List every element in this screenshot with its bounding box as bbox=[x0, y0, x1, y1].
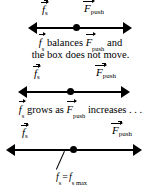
label-friction-force-panel-2: fs bbox=[34, 68, 40, 79]
force-arrow-panel-2 bbox=[18, 86, 130, 98]
force-arrow-panel-3 bbox=[6, 144, 142, 156]
arrow-head-right-icon bbox=[121, 86, 130, 98]
caption-panel-1-line-2: the box does not move. bbox=[0, 49, 161, 60]
arrow-shaft bbox=[24, 91, 124, 93]
arrow-head-right-icon bbox=[123, 22, 132, 34]
panel-friction-grows: fs Fpush fs grows as Fpush increases . .… bbox=[0, 64, 161, 122]
arrow-head-right-icon bbox=[133, 144, 142, 156]
caption-panel-2: fs grows as Fpush increases . . . bbox=[0, 104, 161, 119]
label-friction-force-panel-1: fs bbox=[42, 4, 48, 15]
box-pivot-dot bbox=[73, 24, 80, 31]
vector-symbol-F: F bbox=[84, 3, 91, 14]
label-push-force-panel-3: Fpush bbox=[112, 125, 132, 136]
panel-friction-at-maximum: fs Fpush fs=fs max bbox=[0, 122, 161, 194]
box-pivot-dot bbox=[70, 146, 77, 153]
vector-symbol-F: F bbox=[96, 67, 103, 78]
arrow-shaft bbox=[34, 27, 126, 29]
label-push-force-panel-1: Fpush bbox=[84, 3, 104, 14]
annotation-max-static-friction: fs=fs max bbox=[56, 172, 87, 185]
label-push-force-panel-2: Fpush bbox=[96, 67, 116, 78]
vector-symbol-F: F bbox=[112, 125, 119, 136]
label-friction-force-panel-3: fs bbox=[22, 127, 28, 138]
box-pivot-dot bbox=[67, 88, 74, 95]
panel-static-friction-balances: fs Fpush fs balances Fpush and the box d… bbox=[0, 0, 161, 64]
